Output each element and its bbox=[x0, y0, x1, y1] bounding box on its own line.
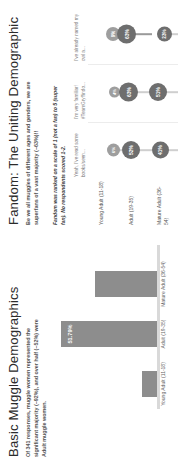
bar-chart: Young Adult (11-18) 51.79% Adult (19-35)… bbox=[58, 241, 176, 455]
panel-basic-muggle-demographics: Basic Muggle Demographics Of 341 respons… bbox=[0, 235, 183, 463]
right-panel-title: Fandom: The Uniting Demographic bbox=[6, 17, 21, 225]
column-header-2: I'm very familiar! #TeamGryffindo... bbox=[74, 65, 88, 119]
bar-category-adult: Adult (19-35) bbox=[160, 320, 166, 349]
cell-young-adult-col2: 4% bbox=[92, 65, 122, 119]
lollipop-matrix-chart: Yeah, I've read some books/seen... I'm v… bbox=[74, 3, 178, 225]
bar-rect-mature-adult[interactable] bbox=[95, 271, 157, 297]
dot-adult-col3[interactable]: 63% bbox=[117, 25, 136, 44]
column-header-3: I've already named my owl a... bbox=[74, 7, 88, 61]
row-label-mature-adult: Mature Adult (36-54) bbox=[156, 181, 170, 225]
cell-mature-adult-col3: 23% bbox=[148, 7, 178, 61]
right-panel-note: Fandom was ranked on a scale of 1 (not a… bbox=[52, 83, 68, 225]
row-label-young-adult: Young Adult (11-18) bbox=[98, 181, 105, 225]
cell-mature-adult-col1: 41% bbox=[148, 123, 178, 177]
dot-adult-col2[interactable]: 63% bbox=[119, 83, 138, 102]
infographic-canvas: Basic Muggle Demographics Of 341 respons… bbox=[0, 0, 183, 463]
bar-rect-adult[interactable]: 51.79% bbox=[61, 321, 157, 347]
cell-young-adult-col1: 6% bbox=[92, 123, 122, 177]
cell-mature-adult-col2: 51% bbox=[148, 65, 178, 119]
left-panel-title: Basic Muggle Demographics bbox=[6, 287, 21, 457]
bar-category-mature-adult: Mature Adult (36-54) bbox=[160, 261, 166, 307]
bar-category-young-adult: Young Adult (11-18) bbox=[160, 362, 166, 406]
dot-mature-adult-col3[interactable]: 23% bbox=[157, 27, 172, 42]
column-header-1: Yeah, I've read some books/seen... bbox=[74, 123, 88, 177]
dot-young-adult-col1[interactable]: 6% bbox=[107, 144, 120, 157]
row-label-adult: Adult (19-35) bbox=[128, 181, 135, 225]
dot-mature-adult-col2[interactable]: 51% bbox=[149, 83, 167, 101]
panel-fandom-uniting-demographic: Fandom: The Uniting Demographic Be we al… bbox=[0, 0, 183, 231]
infographic-root: Basic Muggle Demographics Of 341 respons… bbox=[0, 0, 183, 463]
bar-rect-young-adult[interactable] bbox=[142, 371, 157, 397]
dot-adult-col1[interactable]: 52% bbox=[122, 141, 140, 159]
bar-value-adult: 51.79% bbox=[67, 325, 73, 344]
left-panel-subtitle: Of 341 responses, muggle women represent… bbox=[24, 307, 48, 457]
dot-mature-adult-col1[interactable]: 41% bbox=[152, 142, 169, 159]
right-panel-subtitle: Be we all muggles of different ages and … bbox=[24, 75, 40, 225]
